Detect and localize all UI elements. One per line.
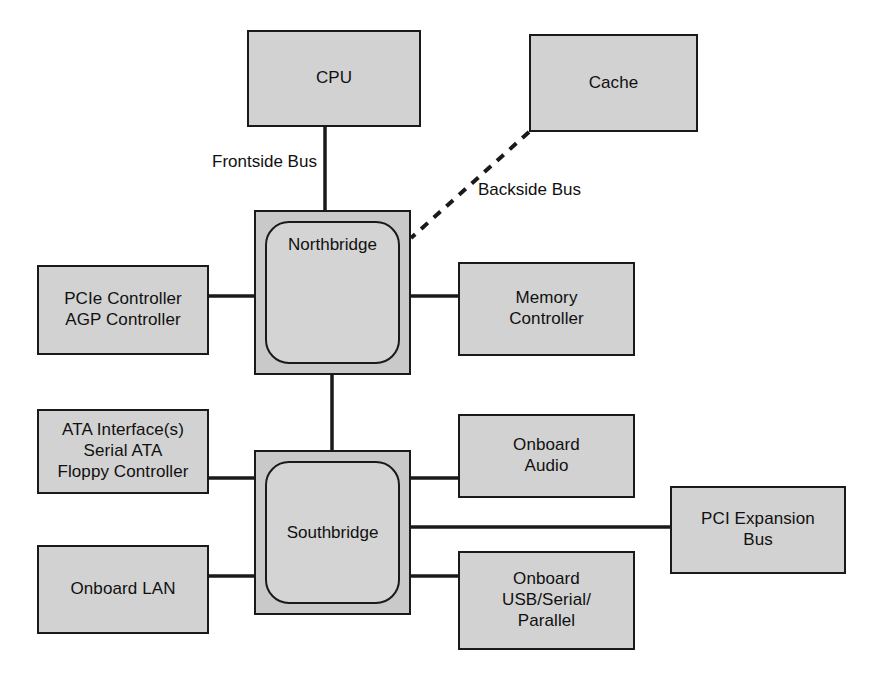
- node-cpu[interactable]: CPU: [247, 30, 421, 127]
- node-southbridge-label: Southbridge: [287, 523, 379, 543]
- node-memory-controller[interactable]: Memory Controller: [458, 262, 635, 356]
- frontside-bus-label: Frontside Bus: [212, 152, 317, 172]
- node-onboard-lan[interactable]: Onboard LAN: [37, 545, 209, 634]
- node-southbridge[interactable]: Southbridge: [254, 450, 411, 615]
- backside-bus-label: Backside Bus: [478, 180, 581, 200]
- node-cache[interactable]: Cache: [529, 34, 698, 132]
- node-onboard-audio[interactable]: Onboard Audio: [458, 414, 635, 498]
- node-ata-interfaces[interactable]: ATA Interface(s) Serial ATA Floppy Contr…: [37, 409, 209, 494]
- node-northbridge-label: Northbridge: [288, 235, 377, 255]
- node-memory-controller-label: Memory Controller: [505, 288, 588, 329]
- node-cache-label: Cache: [585, 73, 643, 94]
- node-cpu-label: CPU: [312, 68, 356, 89]
- node-pci-expansion-bus[interactable]: PCI Expansion Bus: [670, 486, 846, 574]
- node-onboard-usb-serial-parallel[interactable]: Onboard USB/Serial/ Parallel: [458, 551, 635, 650]
- node-onboard-audio-label: Onboard Audio: [509, 435, 584, 476]
- node-pcie-agp-controller[interactable]: PCIe Controller AGP Controller: [37, 265, 209, 355]
- chipset-diagram-canvas: CPU Cache PCIe Controller AGP Controller…: [0, 0, 879, 676]
- node-pcie-agp-controller-label: PCIe Controller AGP Controller: [60, 289, 186, 330]
- node-pci-expansion-bus-label: PCI Expansion Bus: [697, 509, 819, 550]
- node-northbridge[interactable]: Northbridge: [254, 210, 411, 375]
- node-ata-interfaces-label: ATA Interface(s) Serial ATA Floppy Contr…: [53, 420, 192, 482]
- node-onboard-usb-serial-parallel-label: Onboard USB/Serial/ Parallel: [498, 569, 595, 631]
- northbridge-die: Northbridge: [265, 221, 400, 364]
- node-onboard-lan-label: Onboard LAN: [66, 579, 179, 600]
- southbridge-die: Southbridge: [265, 461, 400, 604]
